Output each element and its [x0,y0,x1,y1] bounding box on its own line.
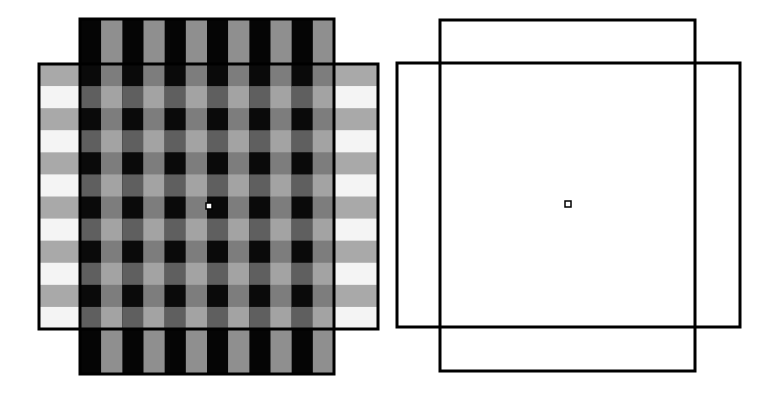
overlap-cell [207,219,229,242]
overlap-cell [271,285,293,308]
overlap-cell [249,130,271,153]
overlap-cell [313,307,335,330]
overlap-cell [271,152,293,175]
overlap-cell [313,152,335,175]
overlap-cell [313,174,335,197]
overlap-cell [313,130,335,153]
vertical-outline-rect [440,20,695,371]
overlap-cell [80,241,102,264]
overlap-cell [207,241,229,264]
overlap-cell [313,86,335,109]
overlap-cell [249,285,271,308]
overlap-cell [249,86,271,109]
overlap-cell [80,263,102,286]
overlap-cell [165,130,187,153]
overlap-cell [271,241,293,264]
overlap-cell [313,219,335,242]
overlap-cell [165,86,187,109]
overlap-cell [271,263,293,286]
overlap-cell [101,152,123,175]
overlap-cell [271,197,293,220]
overlap-cell [186,130,208,153]
overlap-cell [271,108,293,131]
overlap-cell [313,285,335,308]
overlap-cell [101,64,123,87]
overlap-cell [186,285,208,308]
overlap-cell [80,219,102,242]
overlap-cell [292,86,314,109]
overlap-cell [249,174,271,197]
overlap-cell [186,174,208,197]
overlap-cell [207,263,229,286]
overlap-cell [292,152,314,175]
overlap-cell [207,307,229,330]
overlap-cell [271,219,293,242]
overlap-cell [249,197,271,220]
overlap-cell [186,307,208,330]
overlap-cell [101,108,123,131]
overlap-cell [271,307,293,330]
overlap-cell [122,174,144,197]
overlap-cell [249,64,271,87]
overlap-cell [101,197,123,220]
overlap-cell [207,152,229,175]
overlap-cell [144,219,166,242]
overlap-cell [80,307,102,330]
overlap-cell [80,86,102,109]
overlap-cell [101,241,123,264]
overlap-cell [249,263,271,286]
overlap-cell [122,285,144,308]
overlap-cell [207,130,229,153]
overlap-cell [80,152,102,175]
overlap-cell [101,285,123,308]
center-marker [206,203,212,209]
overlap-cell [101,86,123,109]
overlap-cell [271,174,293,197]
overlap-cell [292,285,314,308]
overlap-cell [186,241,208,264]
overlap-cell [207,86,229,109]
overlap-cell [228,241,250,264]
overlap-cell [144,130,166,153]
overlap-cell [122,219,144,242]
overlap-cell [165,108,187,131]
overlap-cell [313,241,335,264]
overlap-cell [144,108,166,131]
overlap-cell [101,130,123,153]
overlap-cell [292,263,314,286]
overlap-cell [101,219,123,242]
overlap-cell [207,64,229,87]
overlap-cell [228,152,250,175]
overlap-cell [80,197,102,220]
overlap-cell [80,130,102,153]
overlap-cell [122,108,144,131]
overlap-cell [101,307,123,330]
overlap-cell [186,219,208,242]
overlap-cell [165,263,187,286]
overlap-cell [207,108,229,131]
overlap-cell [249,241,271,264]
overlap-cell [228,263,250,286]
overlap-cell [144,174,166,197]
overlap-cell [144,285,166,308]
horizontal-outline-rect [397,63,740,327]
overlap-cell [228,219,250,242]
overlap-cell [186,197,208,220]
overlap-cell [292,130,314,153]
overlap-cell [249,108,271,131]
overlap-cell [165,285,187,308]
overlap-cell [80,64,102,87]
overlap-cell [271,64,293,87]
overlap-cell [292,108,314,131]
overlap-cell [186,152,208,175]
diagram-canvas [0,0,776,396]
overlap-cell [144,152,166,175]
overlap-cell [271,86,293,109]
overlap-cell [186,108,208,131]
overlap-cell [228,307,250,330]
overlap-cell [144,64,166,87]
overlap-cell [101,174,123,197]
overlap-cell [228,86,250,109]
overlap-cell [165,174,187,197]
striped-overlap-figure [39,19,378,374]
